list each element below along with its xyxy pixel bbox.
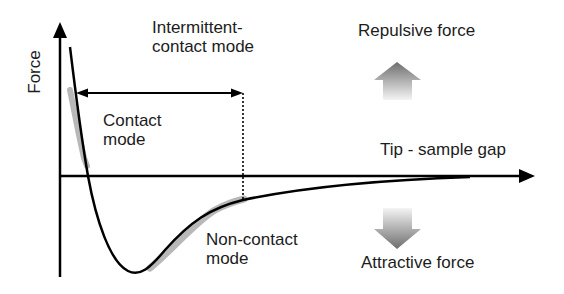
attractive-arrow-icon	[374, 208, 421, 249]
contact-mode-line1: Contact	[103, 111, 162, 130]
intermittent-mode-line1: Intermittent-	[152, 18, 254, 37]
non-contact-mode-line2: mode	[206, 249, 298, 268]
contact-mode-label: Contact mode	[103, 111, 162, 149]
repulsive-arrow-icon	[374, 62, 421, 100]
attractive-force-label: Attractive force	[361, 253, 474, 272]
y-axis	[53, 22, 67, 277]
non-contact-mode-line1: Non-contact	[206, 230, 298, 249]
y-axis-arrowhead-icon	[53, 22, 67, 38]
arrow-left-icon	[76, 89, 88, 98]
repulsive-force-label: Repulsive force	[358, 21, 475, 40]
intermittent-mode-line2: contact mode	[152, 37, 254, 56]
intermittent-mode-label: Intermittent- contact mode	[152, 18, 254, 56]
x-axis-arrowhead-icon	[519, 169, 535, 183]
non-contact-mode-label: Non-contact mode	[206, 230, 298, 268]
x-axis-label: Tip - sample gap	[380, 140, 506, 159]
arrow-right-icon	[231, 89, 243, 98]
y-axis-label: Force	[25, 50, 44, 93]
contact-mode-line2: mode	[103, 130, 162, 149]
